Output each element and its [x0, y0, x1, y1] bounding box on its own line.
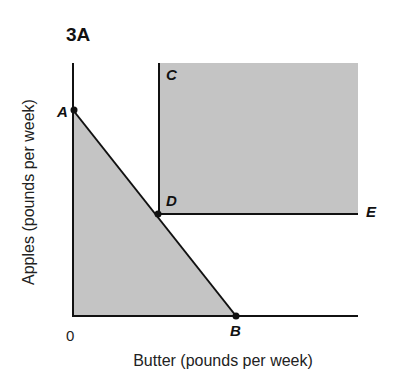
- diagram-canvas: [0, 0, 397, 387]
- point-b-marker: [233, 313, 240, 320]
- preferred-region-shading: [159, 63, 358, 214]
- point-d-marker: [155, 211, 162, 218]
- origin-label: 0: [66, 327, 74, 344]
- point-c-label: C: [166, 67, 177, 82]
- point-d-label: D: [166, 193, 177, 208]
- figure-title: 3A: [66, 24, 90, 46]
- y-axis-label: Apples (pounds per week): [20, 99, 38, 285]
- point-a-marker: [71, 107, 78, 114]
- point-e-label: E: [366, 204, 376, 219]
- figure-3a: 3A A C D E B 0 Butter (pounds per week) …: [0, 0, 397, 387]
- x-axis-label: Butter (pounds per week): [98, 352, 348, 370]
- point-b-label: B: [230, 323, 241, 338]
- point-a-label: A: [57, 104, 68, 119]
